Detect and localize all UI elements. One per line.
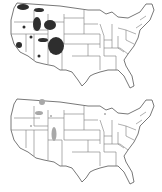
region-northern-montana-2	[34, 8, 44, 12]
us-outline	[11, 3, 154, 88]
region-california-sierra	[16, 42, 22, 48]
region-colorado-large	[48, 37, 64, 55]
us-map-bottom	[0, 96, 162, 192]
region-wyoming-dots	[50, 115, 52, 117]
map-panel-top	[0, 0, 162, 96]
region-michigan-dot	[104, 113, 106, 115]
region-nevada-dot	[30, 125, 32, 127]
region-oregon-dot	[23, 26, 26, 29]
region-idaho-wyoming	[35, 111, 43, 115]
region-idaho-central	[33, 17, 41, 31]
region-nevada-dot	[30, 36, 33, 39]
region-northern-idaho-montana-1	[17, 4, 29, 10]
us-outline	[11, 99, 154, 184]
map-panel-bottom	[0, 96, 162, 192]
region-colorado-strip	[52, 127, 57, 141]
region-utah-belt	[38, 38, 48, 42]
region-arizona-dot	[38, 55, 41, 58]
region-wyoming-nw	[44, 20, 56, 30]
us-map-top	[0, 0, 162, 96]
region-montana-west	[39, 99, 45, 105]
